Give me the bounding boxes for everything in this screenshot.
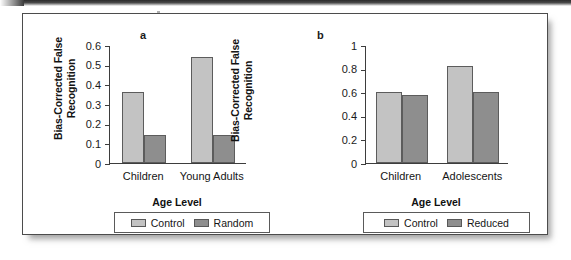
panel-b-plot-area: 00.20.40.60.81 <box>365 46 508 164</box>
y-tick-label: 0.6 <box>342 87 357 99</box>
legend-item-control: Control <box>384 217 438 229</box>
legend-label-control: Control <box>151 217 185 229</box>
bar-control-children <box>376 92 402 163</box>
y-tick-label: 0.4 <box>86 79 101 91</box>
y-tick: 0.3 <box>105 105 110 106</box>
bar-control-young-adults <box>191 57 213 163</box>
y-tick: 0.2 <box>105 125 110 126</box>
y-tick-label: 0.6 <box>86 40 101 52</box>
legend-label-reduced: Reduced <box>467 217 509 229</box>
figure-frame: a Bias-Corrected False Recognition 00.10… <box>22 13 548 235</box>
panel-b-letter: b <box>317 29 324 41</box>
y-tick: 0.1 <box>105 144 110 145</box>
y-tick-label: 0.8 <box>342 63 357 75</box>
y-tick: 0 <box>105 164 110 165</box>
y-tick: 0.8 <box>361 70 366 71</box>
bar-control-adolescents <box>447 66 473 163</box>
bar-reduced-children <box>402 95 428 163</box>
y-tick: 0.2 <box>361 140 366 141</box>
legend-swatch-control-icon <box>131 219 146 227</box>
y-tick-label: 1 <box>351 40 357 52</box>
y-tick: 1 <box>361 46 366 47</box>
y-tick-label: 0 <box>95 158 101 170</box>
panel-b: b Bias-Corrected False Recognition 00.20… <box>289 14 549 236</box>
panel-b-y-axis-label: Bias-Corrected False Recognition <box>229 31 254 151</box>
scan-top-strip-fade <box>0 0 24 6</box>
panel-a-x-axis-title: Age Level <box>109 196 245 208</box>
panel-a-y-axis-label: Bias-Corrected False Recognition <box>52 29 77 149</box>
y-tick-label: 0.5 <box>86 59 101 71</box>
bar-reduced-adolescents <box>473 92 499 163</box>
y-tick: 0.6 <box>105 46 110 47</box>
panel-a-letter: a <box>140 29 146 41</box>
x-category-label: Young Adults <box>162 170 262 182</box>
legend-label-control: Control <box>404 217 438 229</box>
legend-label-random: Random <box>214 217 254 229</box>
legend-item-control: Control <box>131 217 185 229</box>
panel-a-plot-area: 00.10.20.30.40.50.6 <box>109 46 246 164</box>
y-tick: 0.6 <box>361 93 366 94</box>
y-tick-label: 0.2 <box>86 118 101 130</box>
scanned-page: a Bias-Corrected False Recognition 00.10… <box>0 0 571 260</box>
bar-control-children <box>122 92 144 163</box>
y-tick-label: 0.4 <box>342 110 357 122</box>
legend-swatch-random-icon <box>194 219 209 227</box>
bar-random-children <box>144 135 166 163</box>
legend-swatch-control-icon <box>384 219 399 227</box>
y-tick: 0.4 <box>105 85 110 86</box>
y-tick-label: 0 <box>351 158 357 170</box>
scan-top-strip <box>18 0 571 6</box>
y-tick-label: 0.1 <box>86 138 101 150</box>
y-tick: 0 <box>361 164 366 165</box>
y-tick: 0.4 <box>361 117 366 118</box>
y-tick-label: 0.2 <box>342 134 357 146</box>
legend-item-random: Random <box>194 217 254 229</box>
y-tick-label: 0.3 <box>86 99 101 111</box>
legend-swatch-reduced-icon <box>447 219 462 227</box>
x-category-label: Adolescents <box>422 170 522 182</box>
panel-a-legend: Control Random <box>114 212 270 233</box>
y-tick: 0.5 <box>105 66 110 67</box>
panel-b-legend: Control Reduced <box>363 212 530 233</box>
panel-b-x-axis-title: Age Level <box>365 196 507 208</box>
legend-item-reduced: Reduced <box>447 217 509 229</box>
